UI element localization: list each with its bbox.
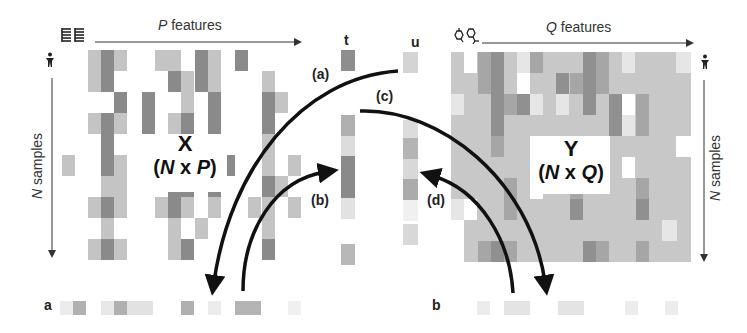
arrow-a-label: (a) (312, 66, 329, 82)
y-matrix-name: Y (532, 137, 610, 161)
u-vector (403, 52, 418, 245)
pls-diagram: P features N samples Q features N sample… (0, 0, 747, 333)
y-matrix-label: Y (N x Q) (532, 137, 610, 183)
arrow-d-label: (d) (427, 192, 445, 208)
x-matrix-label: X (N x P) (140, 132, 230, 178)
arrow-c-label: (c) (376, 88, 393, 104)
x-matrix-dims: (N x P) (140, 156, 230, 178)
x-matrix-name: X (140, 132, 230, 156)
b-vector (477, 301, 678, 315)
diagram-graphics (0, 0, 747, 333)
arrow-b-label: (b) (311, 192, 329, 208)
arrow-b (243, 172, 325, 291)
y-matrix-dims: (N x Q) (532, 161, 610, 183)
a-vector (60, 301, 301, 315)
